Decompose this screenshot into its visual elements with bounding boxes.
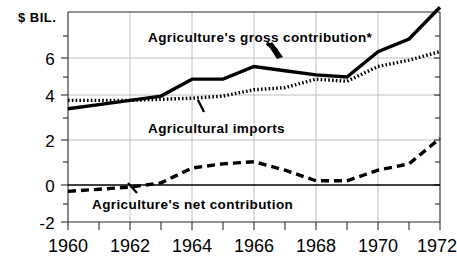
chart-container: $ BIL. 6 4 2 0 -2 1960 1962 1964 1966 19… — [0, 0, 457, 261]
xtick-label-1968: 1968 — [296, 236, 336, 256]
annotation-agricultural-imports: Agricultural imports — [148, 121, 285, 136]
y-axis-ticks — [61, 36, 68, 222]
xtick-label-1960: 1960 — [48, 236, 88, 256]
xtick-label-1970: 1970 — [358, 236, 398, 256]
annotation-gross-contribution: Agriculture's gross contribution* — [148, 30, 373, 45]
ytick-label-0: 0 — [45, 177, 55, 196]
ytick-label-2: 2 — [45, 132, 55, 151]
annotation-net-contribution: Agriculture's net contribution — [92, 197, 293, 212]
xtick-label-1962: 1962 — [110, 236, 150, 256]
xtick-label-1966: 1966 — [234, 236, 274, 256]
xtick-label-1972: 1972 — [417, 236, 457, 256]
xtick-label-1964: 1964 — [172, 236, 212, 256]
line-chart: $ BIL. 6 4 2 0 -2 1960 1962 1964 1966 19… — [0, 0, 457, 261]
ytick-label-minus-2: -2 — [39, 214, 55, 233]
y-axis-title: $ BIL. — [18, 10, 56, 25]
x-axis-ticks — [68, 222, 440, 230]
ytick-label-6: 6 — [45, 50, 55, 69]
ytick-label-4: 4 — [45, 87, 55, 106]
